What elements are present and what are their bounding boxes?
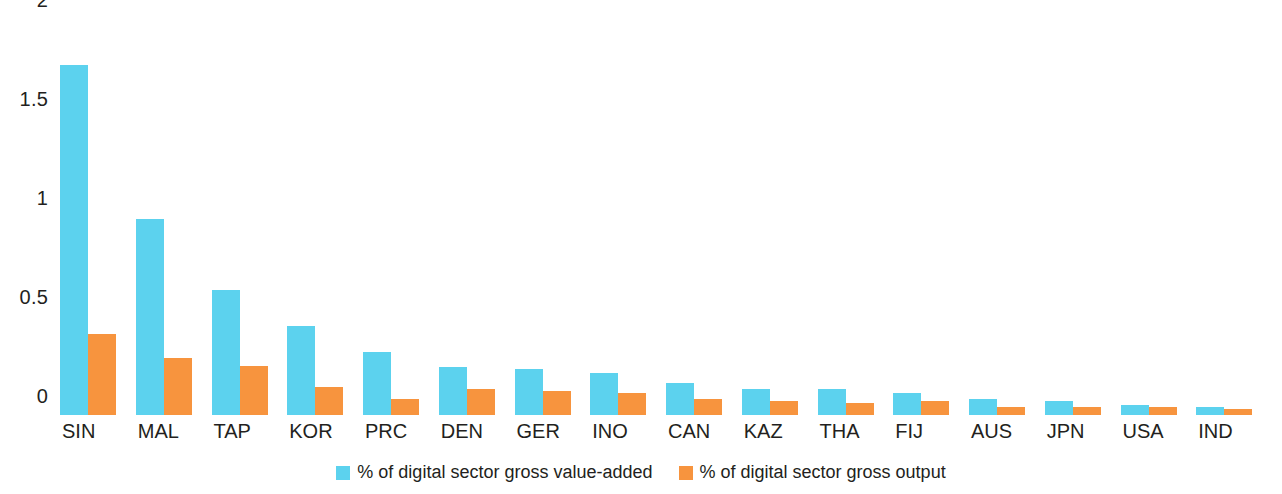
bar-group [818,19,894,415]
bar-value-added[interactable] [742,389,770,415]
bar-value-added[interactable] [287,326,315,415]
x-axis-label-mal: MAL [136,420,212,452]
bar-gross-output[interactable] [770,401,798,415]
bar-value-added[interactable] [136,219,164,415]
x-axis-label-usa: USA [1121,420,1197,452]
y-axis-tick-4: 2 [37,0,48,12]
bar-gross-output[interactable] [1149,407,1177,415]
bar-group [515,19,591,415]
bar-gross-output[interactable] [997,407,1025,415]
legend-item-gross-output[interactable]: % of digital sector gross output [679,462,946,483]
plot-area [60,19,1272,415]
bar-gross-output[interactable] [618,393,646,415]
bar-gross-output[interactable] [315,387,343,415]
x-axis-label-tha: THA [818,420,894,452]
bar-value-added[interactable] [1196,407,1224,415]
legend-label-value-added: % of digital sector gross value-added [357,462,652,483]
bar-gross-output[interactable] [694,399,722,415]
legend-swatch-blue-icon [336,466,350,480]
bar-group [363,19,439,415]
legend-label-gross-output: % of digital sector gross output [700,462,946,483]
bar-value-added[interactable] [515,369,543,415]
x-axis-label-jpn: JPN [1045,420,1121,452]
bar-gross-output[interactable] [88,334,116,415]
x-axis-label-prc: PRC [363,420,439,452]
bar-group [287,19,363,415]
chart-legend: % of digital sector gross value-added % … [0,462,1282,483]
bar-group [969,19,1045,415]
bar-value-added[interactable] [1121,405,1149,415]
bar-gross-output[interactable] [467,389,495,415]
bar-groups [60,19,1272,415]
bar-group [212,19,288,415]
bar-gross-output[interactable] [921,401,949,415]
bar-value-added[interactable] [439,367,467,415]
y-axis-tick-1: 0.5 [20,286,48,309]
bar-value-added[interactable] [60,65,88,415]
bar-value-added[interactable] [818,389,846,415]
bar-gross-output[interactable] [240,366,268,416]
bar-group [136,19,212,415]
bar-value-added[interactable] [666,383,694,415]
bar-gross-output[interactable] [164,358,192,415]
bar-gross-output[interactable] [846,403,874,415]
y-axis-tick-2: 1 [37,187,48,210]
legend-swatch-orange-icon [679,466,693,480]
bar-group [1121,19,1197,415]
x-axis-label-tap: TAP [212,420,288,452]
bar-value-added[interactable] [363,352,391,415]
bar-value-added[interactable] [893,393,921,415]
bar-group [590,19,666,415]
bar-value-added[interactable] [590,373,618,415]
x-axis-label-can: CAN [666,420,742,452]
y-axis-tick-3: 1.5 [20,88,48,111]
y-axis: 00.511.52 [0,0,60,420]
chart-page: 00.511.52 SINMALTAPKORPRCDENGERINOCANKAZ… [0,0,1282,494]
bar-group [60,19,136,415]
y-axis-tick-0: 0 [37,385,48,408]
x-axis-label-fij: FIJ [893,420,969,452]
bar-group [1045,19,1121,415]
bar-value-added[interactable] [1045,401,1073,415]
bar-gross-output[interactable] [391,399,419,415]
bar-gross-output[interactable] [1073,407,1101,415]
x-axis-label-kor: KOR [287,420,363,452]
x-axis-label-sin: SIN [60,420,136,452]
x-axis-label-kaz: KAZ [742,420,818,452]
bar-group [742,19,818,415]
x-axis-label-ino: INO [590,420,666,452]
x-axis-labels: SINMALTAPKORPRCDENGERINOCANKAZTHAFIJAUSJ… [60,420,1272,452]
x-axis-label-ind: IND [1196,420,1272,452]
bar-value-added[interactable] [212,290,240,415]
bar-group [1196,19,1272,415]
x-axis-label-aus: AUS [969,420,1045,452]
bar-value-added[interactable] [969,399,997,415]
legend-item-value-added[interactable]: % of digital sector gross value-added [336,462,652,483]
bar-gross-output[interactable] [1224,409,1252,415]
bar-gross-output[interactable] [543,391,571,415]
x-axis-label-ger: GER [515,420,591,452]
bar-group [439,19,515,415]
x-axis-label-den: DEN [439,420,515,452]
bar-group [666,19,742,415]
bar-group [893,19,969,415]
